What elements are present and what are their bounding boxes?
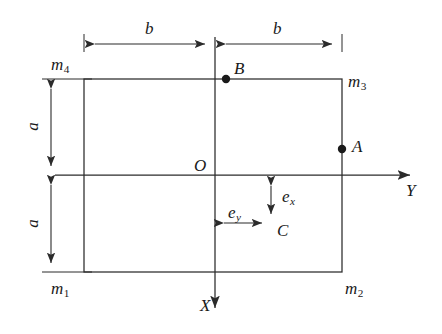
axis-label-x: X	[200, 297, 210, 314]
point-label-A: A	[352, 138, 362, 155]
mass-label-m4: m4	[51, 56, 69, 75]
axis-label-y: Y	[406, 182, 415, 199]
dimension-label-a-upper: a	[24, 122, 41, 131]
dimension-b-right	[226, 34, 342, 52]
point-label-B: B	[234, 60, 244, 77]
point-marker-B	[222, 75, 230, 83]
origin-label-O: O	[194, 157, 206, 174]
point-marker-A	[338, 145, 346, 153]
eccentricity-label-ex: ex	[282, 188, 295, 207]
point-label-C: C	[277, 222, 288, 239]
mass-label-m2: m2	[345, 280, 363, 299]
diagram-canvas: m4 m3 m1 m2 b b a a ex ey B A C O X Y	[0, 0, 442, 334]
eccentricity-label-ey: ey	[228, 204, 241, 223]
mass-label-m1: m1	[51, 280, 69, 299]
dimension-label-b-left: b	[145, 20, 154, 37]
mass-label-m3: m3	[348, 73, 366, 92]
dimension-label-b-right: b	[273, 20, 282, 37]
dimension-label-a-lower: a	[24, 219, 41, 228]
